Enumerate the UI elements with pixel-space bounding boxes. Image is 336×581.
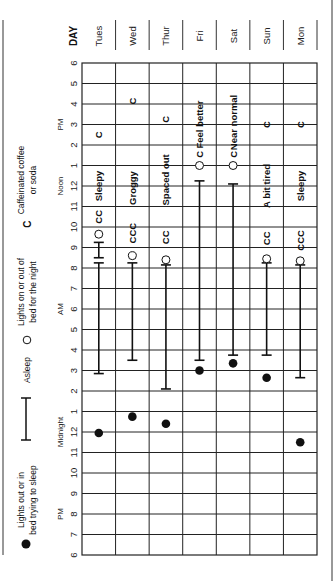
- caffeine-mark: C: [228, 151, 239, 158]
- period-label: PM: [56, 508, 65, 520]
- sleep-diary-chart: Lights out or inbed trying to sleepAslee…: [0, 0, 336, 581]
- day-label-sat: Sat: [228, 29, 239, 44]
- hour-tick-label: 2: [68, 388, 79, 393]
- lights-out-dot: [262, 373, 271, 382]
- legend: Lights out or inbed trying to sleepAslee…: [16, 145, 38, 548]
- caffeine-mark: CC: [93, 210, 104, 224]
- mood-label: Feel better: [194, 100, 205, 148]
- caffeine-mark: CC: [261, 231, 272, 245]
- lights-out-dot: [195, 366, 204, 375]
- period-label: AM: [56, 303, 65, 315]
- caffeine-mark: C: [127, 97, 138, 104]
- day-column-fri: CFeel better: [194, 100, 205, 375]
- hour-tick-label: 3: [68, 368, 79, 373]
- lights-on-circle: [95, 230, 103, 238]
- caffeine-mark: CC: [160, 230, 171, 244]
- hour-tick-label: 11: [68, 202, 79, 212]
- hour-tick-label: 5: [68, 327, 79, 332]
- legend-lights-out-line2: bed trying to sleep: [28, 465, 38, 535]
- mood-label: Sleepy: [295, 170, 306, 201]
- mood-label: Near normal: [228, 95, 239, 150]
- day-label-mon: Mon: [295, 27, 306, 45]
- lights-out-dot: [296, 438, 305, 447]
- mood-label: A bit tired: [261, 164, 272, 208]
- caffeine-mark: CCC: [127, 223, 138, 244]
- diary-marks: CCCSleepyCCCCGroggyCCCSpaced outCFeel be…: [93, 95, 305, 447]
- hour-tick-label: 9: [68, 245, 79, 250]
- mood-label: Spaced out: [160, 153, 171, 205]
- lights-out-dot: [94, 429, 103, 438]
- lights-on-circle: [263, 255, 271, 263]
- period-label: Noon: [56, 176, 65, 195]
- legend-lights-on-line2: bed for the night: [28, 261, 38, 323]
- lights-on-circle: [296, 257, 304, 265]
- day-label-sun: Sun: [261, 28, 272, 45]
- hour-tick-label: 4: [68, 347, 79, 352]
- caffeine-mark: C: [160, 116, 171, 123]
- hour-tick-label: 10: [68, 222, 79, 233]
- day-label-thur: Thur: [160, 26, 171, 46]
- caffeine-mark: C: [295, 121, 306, 128]
- lights-out-dot: [128, 412, 137, 421]
- hour-tick-label: 3: [68, 122, 79, 127]
- caffeine-mark: C: [93, 131, 104, 138]
- hour-tick-label: 7: [68, 532, 79, 537]
- hour-tick-label: 6: [68, 60, 79, 65]
- caffeine-mark: C: [194, 151, 205, 158]
- legend-caffeine-line2: or soda: [28, 166, 38, 195]
- day-column-wed: CCCCGroggy: [127, 97, 138, 421]
- day-label-tues: Tues: [93, 25, 104, 46]
- time-axis: 6789101112123456789101112123456PMMidnigh…: [56, 60, 79, 557]
- hour-tick-label: 9: [68, 491, 79, 496]
- hour-tick-label: 10: [68, 468, 79, 479]
- hour-tick-label: 5: [68, 81, 79, 86]
- legend-lights-on-line1: Lights on or out of: [16, 257, 26, 326]
- hour-tick-label: 11: [68, 448, 79, 458]
- hour-tick-label: 4: [68, 101, 79, 106]
- legend-asleep: Asleep: [22, 357, 32, 383]
- period-label: Midnight: [56, 416, 65, 447]
- hour-tick-label: 6: [68, 306, 79, 311]
- day-label-fri: Fri: [194, 30, 205, 41]
- open-circle-icon: [23, 336, 31, 344]
- day-header: DAYTuesWedThurFriSatSunMon: [68, 20, 318, 50]
- day-label-wed: Wed: [127, 26, 138, 45]
- lights-on-circle: [162, 256, 170, 264]
- mood-label: Groggy: [127, 170, 138, 204]
- lights-out-dot: [162, 420, 171, 429]
- day-column-sun: CCCA bit tired: [261, 121, 272, 382]
- period-label: PM: [56, 118, 65, 130]
- hour-tick-label: 6: [68, 552, 79, 557]
- day-header-label: DAY: [68, 26, 79, 47]
- lights-on-circle: [196, 162, 204, 170]
- caffeine-c-icon: C: [22, 220, 33, 227]
- hour-tick-label: 12: [68, 181, 79, 192]
- day-column-sat: CNear normal: [228, 95, 239, 368]
- hour-tick-label: 12: [68, 427, 79, 438]
- legend-caffeine-line1: Caffeinated coffee: [16, 145, 26, 214]
- hour-tick-label: 8: [68, 265, 79, 270]
- lights-on-circle: [229, 162, 237, 170]
- hour-tick-label: 7: [68, 286, 79, 291]
- hour-tick-label: 8: [68, 511, 79, 516]
- caffeine-mark: C: [261, 121, 272, 128]
- filled-dot-icon: [22, 540, 31, 549]
- legend-lights-out-line1: Lights out or in: [16, 472, 26, 528]
- hour-tick-label: 2: [68, 142, 79, 147]
- mood-label: Sleepy: [93, 170, 104, 201]
- lights-out-dot: [229, 359, 238, 368]
- lights-on-circle: [128, 252, 136, 260]
- day-column-thur: CCCSpaced out: [160, 116, 171, 428]
- caffeine-mark: CCC: [295, 230, 306, 251]
- hour-tick-label: 1: [68, 163, 79, 168]
- hour-tick-label: 1: [68, 409, 79, 414]
- day-column-mon: CCCCSleepy: [295, 121, 306, 447]
